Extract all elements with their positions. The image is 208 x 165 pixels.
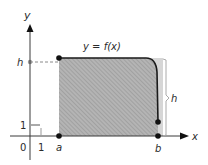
shaded-area-region [59,58,158,136]
point-b [155,133,161,139]
h-left-label: h [17,57,23,68]
point-a [56,133,62,139]
y-unit-label: 1 [20,120,26,131]
diagram-canvas: y x y = f(x) h h 1 0 1 a b [0,0,208,165]
h-bracket [163,59,169,136]
area-under-curve-figure: y x y = f(x) h h 1 0 1 a b [0,0,208,165]
point-a-top [56,55,62,61]
h-bracket-label: h [171,93,177,104]
point-b-top [155,119,161,125]
x-axis-label: x [191,131,198,142]
a-label: a [56,142,62,153]
x-axis-arrow-icon [180,133,189,140]
function-label: y = f(x) [82,41,121,52]
y-axis-label: y [23,9,31,22]
x-unit-label: 1 [38,142,44,153]
origin-label: 0 [20,142,26,153]
b-label: b [155,143,161,154]
y-axis-arrow-icon [27,24,34,32]
